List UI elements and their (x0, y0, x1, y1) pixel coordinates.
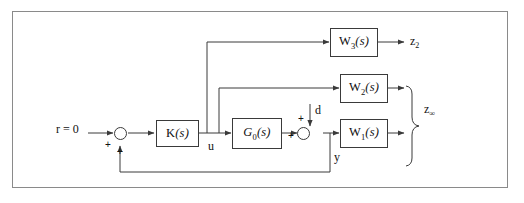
sign-input-plus-bottom: + (117, 147, 123, 157)
block-controller-label: K(s) (166, 126, 189, 141)
diagram-frame (12, 11, 508, 188)
block-weight2: W2(s) (340, 74, 388, 103)
label-output-z-infinity: z∞ (424, 102, 435, 118)
summing-junction-disturbance (297, 127, 310, 140)
label-control-signal: u (208, 139, 214, 154)
sign-input-plus-left: + (105, 140, 111, 150)
block-weight2-label: W2(s) (349, 80, 379, 97)
block-plant-label: G0(s) (243, 125, 270, 142)
block-diagram-figure: + + + + K(s) G0(s) W1(s) W2(s) W3(s) r =… (0, 0, 524, 203)
block-controller: K(s) (156, 120, 199, 147)
block-weight3: W3(s) (330, 28, 378, 57)
label-measurement: y (334, 150, 340, 165)
sign-disturbance-plus-left: + (288, 131, 294, 141)
sign-disturbance-plus-top: + (298, 114, 304, 124)
block-plant: G0(s) (232, 118, 282, 149)
summing-junction-input (114, 127, 127, 140)
label-reference: r = 0 (56, 122, 79, 137)
block-weight1-label: W1(s) (349, 125, 379, 142)
block-weight1: W1(s) (340, 119, 388, 148)
label-output-z2: z2 (410, 34, 419, 50)
block-weight3-label: W3(s) (339, 34, 369, 51)
label-disturbance: d (315, 103, 321, 118)
